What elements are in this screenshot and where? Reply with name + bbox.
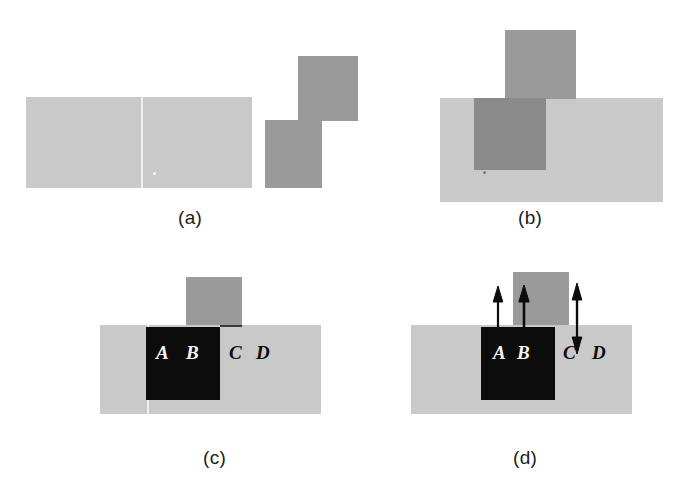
panel-d: A B C D (d) [345, 242, 691, 484]
panel-b-overlap-region [474, 98, 546, 170]
panel-c-label-d: D [256, 343, 270, 362]
panel-b-dark-upper-square [505, 30, 576, 99]
panel-c-label-a: A [156, 343, 169, 362]
figure-canvas: (a) (b) A B C D (c) [0, 0, 691, 484]
panel-c-caption: (c) [203, 447, 226, 469]
panel-d-caption: (d) [513, 447, 537, 469]
panel-c-black-occluder-square [146, 327, 220, 400]
panel-c-label-b: B [186, 343, 199, 362]
panel-d-label-b: B [517, 343, 530, 362]
panel-d-label-c: C [563, 343, 576, 362]
panel-b: (b) [0, 0, 691, 242]
panel-c: A B C D (c) [0, 242, 345, 484]
panel-c-top-edge-line [220, 325, 242, 327]
panel-b-caption: (b) [518, 207, 542, 229]
arrow-up-at-a [493, 286, 503, 330]
panel-b-speck [483, 171, 486, 174]
panel-c-label-c: C [229, 343, 242, 362]
panel-d-label-a: A [493, 343, 506, 362]
panel-d-label-d: D [592, 343, 606, 362]
arrow-up-at-b [519, 285, 529, 330]
panel-c-vertical-gray-bar [186, 277, 242, 332]
